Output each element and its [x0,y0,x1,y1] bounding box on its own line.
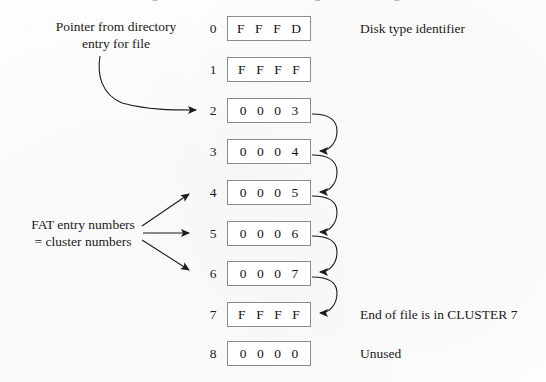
fat-entry-value: 0 0 0 3 [236,103,302,119]
chain-link-5-to-6 [312,236,337,272]
fat-entry-box: 0 0 0 0 [227,341,311,366]
row-index: 5 [204,221,222,246]
fat-entry-value: 0 0 0 5 [236,185,302,201]
fat-row: 4 0 0 0 5 [204,180,314,205]
figure-title-clipped: Figure 2.5 A FAT chain showing cluster l… [0,0,546,8]
fat-entry-box: 0 0 0 6 [227,221,311,246]
unused-label: Unused [360,345,401,362]
fat-entry-value: 0 0 0 4 [236,144,302,160]
row-index: 2 [204,98,222,123]
fat-entry-value: F F F F [235,62,304,78]
fat-chain-diagram: Figure 2.5 A FAT chain showing cluster l… [0,0,546,382]
fat-row: 5 0 0 0 6 [204,221,314,246]
pointer-note-line-1: Pointer from directory [26,18,206,35]
fat-row: 7 F F F F [204,302,314,327]
row-index: 4 [204,180,222,205]
fat-entry-note-line-2: = cluster numbers [8,233,158,250]
fat-entry-box: F F F F [227,57,311,82]
fat-entry-box: F F F D [227,16,311,41]
row-index: 6 [204,261,222,286]
chain-link-2-to-3 [312,114,337,151]
fat-entry-box: 0 0 0 7 [227,261,311,286]
fat-entry-value: 0 0 0 0 [236,346,302,362]
row-index: 8 [204,341,222,366]
row-index: 7 [204,302,222,327]
fat-entry-box: F F F F [227,302,311,327]
fat-row: 6 0 0 0 7 [204,261,314,286]
disk-type-identifier-label: Disk type identifier [360,20,465,37]
chain-link-6-to-7 [312,277,337,313]
fat-entry-value: 0 0 0 7 [236,266,302,282]
row-index: 1 [204,57,222,82]
fat-row: 1 F F F F [204,57,314,82]
fat-row: 8 0 0 0 0 [204,341,314,366]
fat-entry-box: 0 0 0 4 [227,139,311,164]
chain-link-3-to-4 [312,155,337,192]
row-index: 3 [204,139,222,164]
fat-entry-value: F F F D [233,21,304,37]
fat-entry-box: 0 0 0 5 [227,180,311,205]
pointer-arrow-to-row-2 [99,56,196,110]
fat-row: 0 F F F D [204,16,314,41]
fat-row: 2 0 0 0 3 [204,98,314,123]
fat-entry-value: 0 0 0 6 [236,226,302,242]
fat-entry-value: F F F F [235,307,304,323]
chain-link-4-to-5 [312,196,337,232]
end-of-file-label: End of file is in CLUSTER 7 [360,306,518,323]
fat-row: 3 0 0 0 4 [204,139,314,164]
fat-entry-note-line-1: FAT entry numbers [8,216,158,233]
pointer-from-directory-note: Pointer from directory entry for file [26,18,206,52]
row-index: 0 [204,16,222,41]
pointer-note-line-2: entry for file [26,35,206,52]
fat-entry-numbers-note: FAT entry numbers = cluster numbers [8,216,158,250]
fat-entry-box: 0 0 0 3 [227,98,311,123]
figure-title-text: Figure 2.5 A FAT chain showing cluster l… [0,0,546,2]
